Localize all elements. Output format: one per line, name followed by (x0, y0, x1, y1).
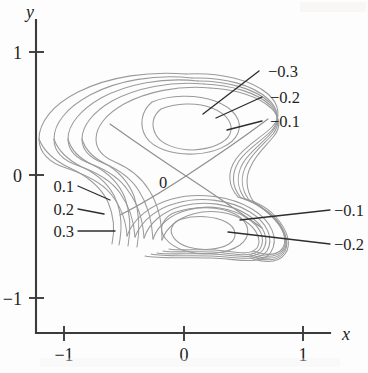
x-tick-label-neg1: −1 (54, 345, 73, 365)
y-tick-label-1: 1 (13, 43, 22, 63)
leader-neg-0-2 (216, 97, 262, 118)
contour-upper-nest-3 (68, 80, 198, 238)
contour-label-pos-0-1: 0.1 (53, 177, 74, 196)
tick-label-group: 1 0 −1 −1 0 1 (3, 43, 308, 365)
contour-plot-canvas: 1 0 −1 −1 0 1 y x −0.3 −0.2 −0.1 (0, 0, 368, 373)
leader-neg-0-1 (227, 121, 262, 130)
contour-label-neg-0-1-right: −0.1 (334, 201, 364, 220)
x-tick-label-1: 1 (299, 345, 308, 365)
x-axis-label: x (341, 324, 350, 344)
contour-upper-oval-inner (153, 104, 231, 150)
contour-label-neg-0-2-right: −0.2 (334, 235, 364, 254)
y-tick-label-neg1: −1 (3, 289, 22, 309)
contour-label-zero: 0 (159, 173, 167, 192)
contour-label-pos-0-3: 0.3 (53, 222, 74, 241)
contour-upper-arm-3 (198, 81, 277, 199)
x-tick-label-0: 0 (180, 345, 189, 365)
contour-label-neg-0-1-top: −0.1 (270, 112, 300, 131)
y-tick-label-0: 0 (13, 166, 22, 186)
leader-neg-0-1-right (240, 210, 330, 220)
contour-lower-oval-inner (171, 217, 235, 250)
contour-label-group: −0.3 −0.2 −0.1 0.1 0.2 0.3 0 −0.1 −0.2 (53, 62, 364, 254)
contour-label-neg-0-2-top: −0.2 (270, 88, 300, 107)
contour-label-neg-0-3: −0.3 (268, 62, 298, 81)
contour-label-pos-0-2: 0.2 (53, 200, 74, 219)
y-axis-label: y (24, 2, 34, 22)
leader-pos-0-2 (78, 209, 104, 214)
axis-name-group: y x (24, 2, 350, 344)
contour-figure: 1 0 −1 −1 0 1 y x −0.3 −0.2 −0.1 (0, 0, 368, 373)
contour-upper-oval-outer (142, 96, 239, 154)
